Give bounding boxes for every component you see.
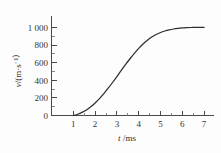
x-axis-title: t /ms <box>118 133 136 143</box>
y-axis-major-ticks <box>52 28 57 98</box>
x-tick-label-7: 7 <box>202 119 207 129</box>
axes-group <box>52 16 215 116</box>
velocity-time-chart: 1 000 800 600 400 200 0 1 2 3 4 5 6 7 t … <box>0 0 221 153</box>
velocity-curve <box>73 27 204 115</box>
x-tick-label-6: 6 <box>180 119 185 129</box>
y-axis-tick-labels: 1 000 800 600 400 200 0 <box>28 23 49 121</box>
x-axis-tick-labels: 1 2 3 4 5 6 7 <box>71 119 207 129</box>
y-tick-label-400: 400 <box>35 76 49 86</box>
x-tick-label-3: 3 <box>115 119 120 129</box>
y-axis-title: v/(m·s−1) <box>10 55 23 88</box>
axis-titles: t /ms v/(m·s−1) <box>10 55 136 143</box>
y-tick-label-1000: 1 000 <box>28 23 49 33</box>
x-tick-label-5: 5 <box>158 119 163 129</box>
y-tick-label-800: 800 <box>35 40 49 50</box>
x-axis-major-ticks <box>73 111 204 116</box>
chart-plot-area: 1 000 800 600 400 200 0 1 2 3 4 5 6 7 t … <box>0 0 221 153</box>
y-tick-label-600: 600 <box>35 58 49 68</box>
y-tick-label-200: 200 <box>35 93 49 103</box>
x-tick-label-2: 2 <box>93 119 98 129</box>
x-tick-label-1: 1 <box>71 119 76 129</box>
x-tick-label-4: 4 <box>136 119 141 129</box>
y-tick-label-0: 0 <box>44 111 49 121</box>
